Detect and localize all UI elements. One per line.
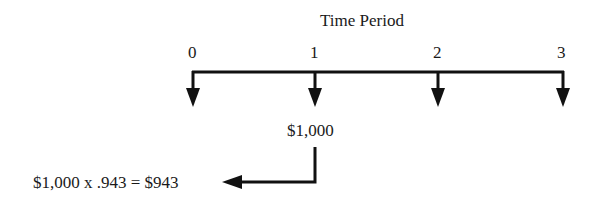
discount-connector-line xyxy=(238,147,315,182)
discount-calculation: $1,000 x .943 = $943 xyxy=(33,174,179,191)
arrow-left-icon xyxy=(222,175,242,189)
arrow-down-icon xyxy=(308,88,322,107)
cash-flow-amount: $1,000 xyxy=(287,122,334,139)
arrow-down-icon xyxy=(556,88,570,107)
arrow-down-icon xyxy=(431,88,445,107)
arrow-down-icon xyxy=(186,88,200,107)
timeline-graphic xyxy=(0,0,599,201)
